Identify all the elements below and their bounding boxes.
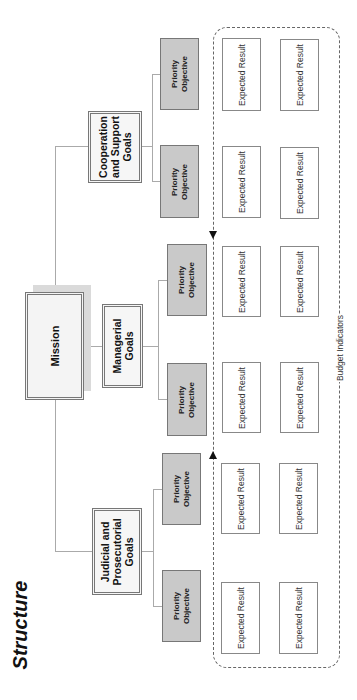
goal-managerial: ManagerialGoals: [102, 304, 143, 388]
goal-judicial-label: Judicial andProsecutorialGoals: [99, 518, 135, 585]
expected-result: Expected Result: [279, 582, 318, 654]
priority-objective-cooperation-1: PriorityObjective: [160, 38, 199, 110]
connector-judicial-po2: [153, 606, 162, 607]
goal-managerial-label: ManagerialGoals: [111, 319, 135, 374]
connector-judicial-po1: [153, 489, 162, 490]
expected-result: Expected Result: [280, 39, 319, 111]
priority-objective-judicial-2: PriorityObjective: [162, 570, 201, 642]
budget-indicators-label: Budget Indicators: [335, 313, 345, 381]
expected-result: Expected Result: [280, 246, 319, 317]
branch-line-cooperation: [55, 146, 88, 147]
mission-box: Mission: [25, 292, 84, 400]
connector-managerial-out: [143, 346, 158, 347]
goal-cooperation: Cooperationand SupportGoals: [88, 111, 142, 183]
arrow-down-icon: [208, 228, 218, 240]
diagram-title: Structure: [0, 570, 40, 680]
expected-result: Expected Result: [280, 147, 319, 219]
priority-objective-judicial-1: PriorityObjective: [162, 453, 201, 525]
diagram-title-text: Structure: [9, 581, 32, 670]
goal-cooperation-label: Cooperationand SupportGoals: [97, 116, 133, 178]
budget-indicators-container: [213, 27, 340, 668]
priority-objective-managerial-2: PriorityObjective: [167, 363, 207, 436]
connector-cooperation-po2: [152, 181, 160, 182]
connector-managerial-vertical: [158, 280, 159, 400]
expected-result: Expected Result: [221, 463, 260, 534]
connector-judicial-vertical: [153, 489, 154, 607]
connector-managerial-po2: [158, 399, 167, 400]
expected-result: Expected Result: [222, 38, 261, 111]
expected-result: Expected Result: [222, 146, 261, 218]
expected-result: Expected Result: [221, 582, 260, 654]
priority-objective-managerial-1: PriorityObjective: [167, 244, 207, 316]
expected-result: Expected Result: [222, 246, 261, 317]
expected-result: Expected Result: [279, 463, 318, 534]
connector-judicial-out: [142, 551, 153, 552]
mission-label: Mission: [49, 326, 61, 367]
connector-cooperation-po1: [152, 74, 160, 75]
branch-line-judicial: [55, 551, 92, 552]
expected-result: Expected Result: [280, 362, 319, 433]
arrow-up-icon: [208, 450, 218, 462]
goal-judicial: Judicial andProsecutorialGoals: [92, 508, 142, 595]
expected-result: Expected Result: [222, 362, 261, 433]
connector-managerial-po1: [158, 280, 167, 281]
priority-objective-cooperation-2: PriorityObjective: [160, 145, 199, 218]
connector-cooperation-out: [142, 146, 152, 147]
budget-indicators-label-wrap: Budget Indicators: [333, 305, 347, 390]
connector-cooperation-vertical: [152, 74, 153, 182]
